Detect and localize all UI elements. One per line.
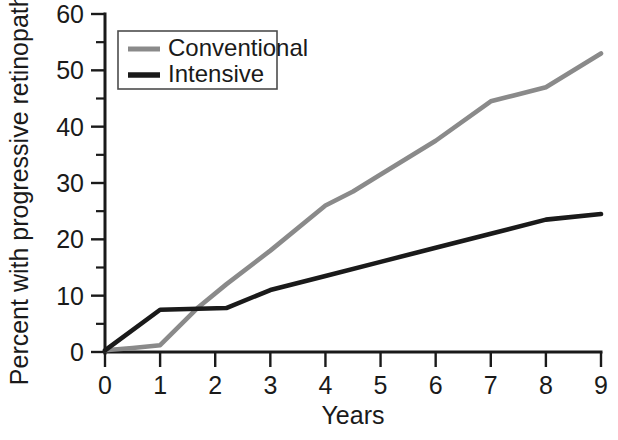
- legend: ConventionalIntensive: [118, 31, 308, 89]
- y-axis-tick-labels: 0102030405060: [56, 0, 84, 366]
- y-tick-label-50: 50: [56, 56, 84, 84]
- x-tick-label-1: 1: [153, 371, 167, 399]
- x-axis-title: Years: [321, 401, 384, 429]
- x-tick-label-8: 8: [539, 371, 553, 399]
- x-tick-label-2: 2: [208, 371, 222, 399]
- y-tick-label-60: 60: [56, 0, 84, 28]
- y-tick-label-20: 20: [56, 225, 84, 253]
- x-axis-major-ticks: [105, 352, 601, 367]
- x-axis-tick-labels: 0123456789: [98, 371, 608, 399]
- y-tick-label-30: 30: [56, 169, 84, 197]
- y-axis-group: 0102030405060: [56, 0, 105, 366]
- x-tick-label-7: 7: [484, 371, 498, 399]
- legend-label-conventional: Conventional: [168, 34, 308, 61]
- x-tick-label-0: 0: [98, 371, 112, 399]
- x-tick-label-5: 5: [374, 371, 388, 399]
- x-tick-label-6: 6: [429, 371, 443, 399]
- x-axis-group: 0123456789: [98, 352, 608, 399]
- retinopathy-line-chart: 0102030405060 0123456789 Years Percent w…: [0, 0, 618, 440]
- x-tick-label-4: 4: [318, 371, 332, 399]
- y-tick-label-40: 40: [56, 113, 84, 141]
- chart-canvas: 0102030405060 0123456789 Years Percent w…: [0, 0, 618, 440]
- x-tick-label-3: 3: [263, 371, 277, 399]
- y-axis-title: Percent with progressive retinopathy: [5, 0, 33, 385]
- y-tick-label-10: 10: [56, 282, 84, 310]
- legend-label-intensive: Intensive: [168, 60, 264, 87]
- x-tick-label-9: 9: [594, 371, 608, 399]
- y-axis-major-ticks: [91, 14, 105, 352]
- data-series-group: [105, 53, 601, 350]
- y-tick-label-0: 0: [70, 338, 84, 366]
- series-line-conventional: [105, 53, 601, 350]
- series-line-intensive: [105, 214, 601, 350]
